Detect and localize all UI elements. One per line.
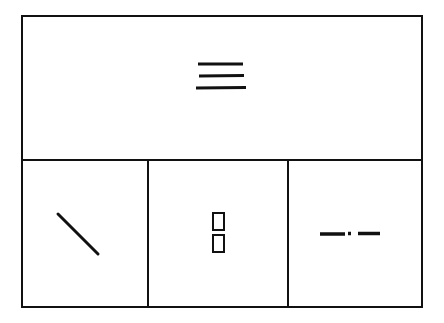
three-horizontal-lines-icon	[196, 64, 246, 88]
stacked-rectangles-icon	[213, 213, 224, 252]
diagonal-line-icon	[58, 214, 98, 254]
dash-dot-line-icon	[320, 234, 380, 235]
symbols-layer	[0, 0, 444, 323]
